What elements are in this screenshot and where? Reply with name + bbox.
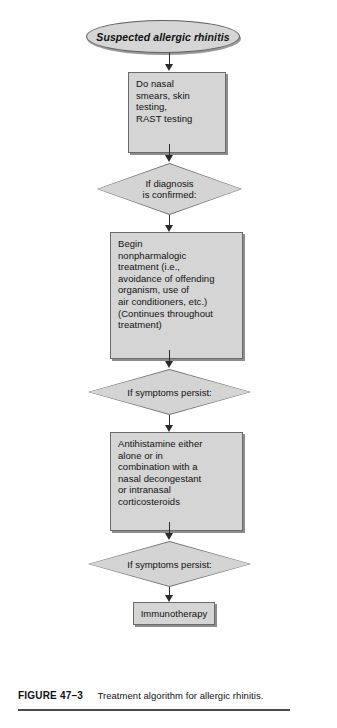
workup-line-4: RAST testing bbox=[136, 113, 219, 125]
workup-line-1: Do nasal bbox=[136, 78, 219, 90]
flow-node-start-oval: Suspected allergic rhinitis bbox=[86, 20, 240, 53]
arrowhead-workup-to-diagnosis bbox=[165, 155, 173, 162]
antihistamine-line-4: nasal decongestant bbox=[118, 473, 236, 485]
persist2-text: If symptoms persist: bbox=[127, 559, 211, 570]
legend: Key Starting point for decision making (… bbox=[0, 628, 337, 686]
arrowhead-antihistamine-to-persist2 bbox=[165, 533, 173, 540]
nonpharm-line-7: (Continues throughout bbox=[118, 308, 236, 320]
persist2-diamond-label: If symptoms persist: bbox=[88, 541, 251, 587]
caption-rule bbox=[18, 709, 290, 711]
immunotherapy-label: Immunotherapy bbox=[141, 608, 208, 620]
antihistamine-line-6: corticosteroids bbox=[118, 496, 236, 508]
antihistamine-line-3: combination with a bbox=[118, 461, 236, 473]
workup-line-3: testing, bbox=[136, 101, 219, 113]
flow-node-start-label: Suspected allergic rhinitis bbox=[96, 31, 229, 43]
antihistamine-line-5: or intranasal bbox=[118, 484, 236, 496]
flow-node-workup-box: Do nasal smears, skin testing, RAST test… bbox=[128, 72, 226, 153]
nonpharm-line-6: air conditioners, etc.) bbox=[118, 296, 236, 308]
figure-root: Suspected allergic rhinitis Do nasal sme… bbox=[0, 0, 337, 728]
arrowhead-diagnosis-to-nonpharm bbox=[165, 225, 173, 232]
flow-node-persist2-diamond: If symptoms persist: bbox=[88, 541, 251, 587]
nonpharm-line-3: treatment (i.e., bbox=[118, 261, 236, 273]
nonpharm-line-1: Begin bbox=[118, 238, 236, 250]
flow-node-nonpharmacologic-box: Begin nonpharmalogic treatment (i.e., av… bbox=[110, 232, 243, 359]
arrowhead-persist1-to-antihistamine bbox=[165, 425, 173, 432]
flow-node-antihistamine-box: Antihistamine either alone or in combina… bbox=[110, 432, 243, 531]
antihistamine-line-1: Antihistamine either bbox=[118, 438, 236, 450]
flow-node-immunotherapy-box: Immunotherapy bbox=[133, 602, 215, 625]
nonpharm-line-8: treatment) bbox=[118, 319, 236, 331]
workup-line-2: smears, skin bbox=[136, 90, 219, 102]
antihistamine-line-2: alone or in bbox=[118, 450, 236, 462]
flow-node-diagnosis-diamond: If diagnosis is confirmed: bbox=[97, 163, 242, 215]
arrowhead-start-to-workup bbox=[165, 64, 173, 71]
figure-caption: FIGURE 47–3 Treatment algorithm for alle… bbox=[18, 690, 323, 701]
diagnosis-line-1: If diagnosis bbox=[145, 178, 193, 190]
flow-node-persist1-diamond: If symptoms persist: bbox=[88, 369, 251, 415]
nonpharm-line-5: organism, use of bbox=[118, 284, 236, 296]
persist1-diamond-label: If symptoms persist: bbox=[88, 369, 251, 415]
figure-number: FIGURE 47–3 bbox=[18, 690, 83, 701]
nonpharm-line-4: avoidance of offending bbox=[118, 273, 236, 285]
nonpharm-line-2: nonpharmalogic bbox=[118, 250, 236, 262]
diagnosis-line-2: is confirmed: bbox=[143, 189, 197, 201]
diagnosis-diamond-label: If diagnosis is confirmed: bbox=[97, 163, 242, 215]
arrowhead-persist2-to-immunotherapy bbox=[165, 595, 173, 602]
figure-caption-text: Treatment algorithm for allergic rhiniti… bbox=[97, 690, 263, 701]
arrowhead-nonpharm-to-persist1 bbox=[165, 361, 173, 368]
persist1-text: If symptoms persist: bbox=[127, 387, 211, 398]
